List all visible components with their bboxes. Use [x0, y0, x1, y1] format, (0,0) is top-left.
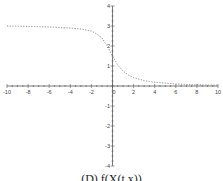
- x-tick-label: 10: [215, 89, 221, 95]
- x-tick-label: -6: [47, 89, 52, 95]
- y-tick-label: 3: [107, 23, 110, 29]
- y-tick-label: -4: [105, 163, 110, 169]
- y-tick-label: 1: [107, 63, 110, 69]
- x-tick-label: -4: [68, 89, 73, 95]
- y-tick-label: -1: [105, 103, 110, 109]
- y-tick-label: 4: [107, 3, 110, 9]
- x-tick-label: 2: [132, 89, 135, 95]
- function-plot: -10-8-6-4-20246810-4-3-2-11234: [0, 0, 223, 181]
- x-tick-label: 8: [195, 89, 198, 95]
- x-tick-label: -10: [3, 89, 11, 95]
- y-tick-label: 2: [107, 43, 110, 49]
- figure-caption: (D) f(X(t,x)): [0, 172, 223, 181]
- x-tick-label: -2: [89, 89, 94, 95]
- x-tick-label: 0: [112, 89, 115, 95]
- x-tick-label: 4: [153, 89, 156, 95]
- x-tick-label: -8: [26, 89, 31, 95]
- y-tick-label: -2: [105, 123, 110, 129]
- x-tick-label: 6: [174, 89, 177, 95]
- y-tick-label: -3: [105, 143, 110, 149]
